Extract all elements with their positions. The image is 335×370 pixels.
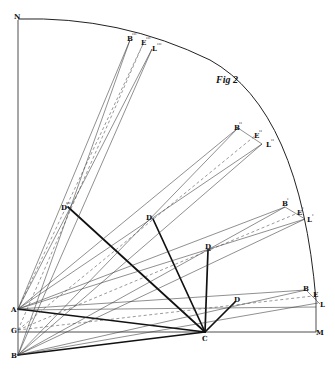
- label-n: N: [14, 12, 21, 21]
- label-b: B: [11, 351, 17, 360]
- ray-a-l3: [18, 144, 262, 309]
- line-a-c: [18, 309, 205, 332]
- ray-a-l2: [18, 219, 305, 309]
- line-b-c: [18, 332, 205, 355]
- label-c: C: [202, 334, 208, 343]
- ray-a-b4: [18, 40, 130, 309]
- label-e2-prime: ': [302, 206, 304, 212]
- label-e4-prime: ''': [146, 36, 151, 42]
- label-l2-prime: ': [312, 213, 314, 219]
- label-b4-prime: ''': [132, 32, 137, 38]
- line-c-d1: [205, 302, 235, 332]
- ray-g-e4: [18, 44, 143, 330]
- label-d2: D: [205, 242, 211, 251]
- ray-a-b2: [18, 207, 285, 309]
- label-b3-prime: '': [239, 121, 243, 127]
- label-l3-prime: '': [271, 138, 275, 144]
- line-c-d4: [68, 207, 205, 332]
- label-m: M: [316, 328, 324, 337]
- geometric-diagram: Fig 2 N A G B C M D ''' D D D B ''' E ''…: [0, 0, 335, 370]
- label-d1: D: [234, 295, 240, 304]
- ray-a-b3: [18, 128, 238, 309]
- quadrant-arc: [18, 19, 316, 300]
- label-d3: D: [146, 213, 152, 222]
- ray-a-l4: [18, 49, 152, 309]
- ray-g-e1: [18, 296, 313, 330]
- line-c-d3: [153, 219, 205, 332]
- label-g: G: [11, 326, 17, 335]
- label-l1: L: [320, 300, 325, 309]
- ray-b-b2: [18, 207, 285, 355]
- label-a: A: [10, 305, 17, 314]
- figure-title: Fig 2: [215, 74, 238, 85]
- label-b1: B: [303, 284, 309, 293]
- line-c-d2: [205, 250, 208, 332]
- label-e3-prime: '': [259, 129, 263, 135]
- label-l4-prime: ''': [157, 42, 162, 48]
- label-e1: E: [313, 290, 318, 299]
- ray-a-e4: [18, 44, 143, 309]
- label-d4-prime: ''': [66, 201, 71, 207]
- ray-b-l1: [18, 303, 318, 355]
- label-b2-prime: ': [287, 197, 289, 203]
